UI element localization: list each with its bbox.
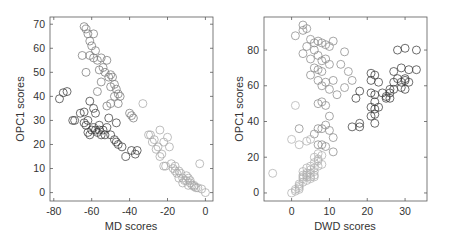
data-point: [325, 60, 333, 68]
data-point: [329, 148, 337, 156]
x-axis-label-left: MD scores: [105, 220, 158, 232]
data-point: [158, 150, 166, 158]
data-point: [288, 135, 296, 143]
data-point: [341, 84, 349, 92]
x-axis-label-right: DWD scores: [314, 220, 376, 232]
axis-ticks-left: -80-60-40-200010203040506070: [33, 17, 213, 217]
x-tick-label: 30: [399, 205, 411, 217]
x-tick-label: -40: [122, 205, 137, 217]
data-point: [303, 42, 311, 50]
data-point: [329, 76, 337, 84]
y-tick-label: 50: [33, 66, 45, 78]
data-point: [356, 87, 364, 95]
y-axis-label-left: OPC1 scores: [14, 76, 26, 142]
data-point: [333, 91, 341, 99]
data-point: [314, 51, 322, 59]
data-point: [156, 153, 164, 161]
data-point: [145, 131, 153, 139]
data-point: [156, 126, 164, 134]
data-point: [82, 121, 90, 129]
y-tick-label: 30: [33, 114, 45, 126]
data-point: [160, 162, 168, 170]
data-point: [105, 114, 113, 122]
data-point: [78, 51, 86, 59]
y-tick-label: 0: [39, 186, 45, 198]
data-point: [314, 76, 322, 84]
data-point: [341, 48, 349, 56]
data-point: [307, 55, 315, 63]
data-point: [356, 123, 364, 131]
figure: -80-60-40-200010203040506070 MD scores O…: [0, 0, 450, 242]
data-point: [86, 131, 94, 139]
data-point: [154, 143, 162, 151]
data-point: [412, 46, 420, 54]
data-point: [329, 37, 337, 45]
x-tick-label: 0: [289, 205, 295, 217]
x-tick-label: -20: [160, 205, 175, 217]
x-tick-label: -80: [46, 205, 61, 217]
x-tick-label: 10: [324, 205, 336, 217]
data-point: [394, 46, 402, 54]
y-tick-label: 20: [247, 151, 259, 163]
y-tick-label: 20: [33, 138, 45, 150]
x-tick-label: -60: [84, 205, 99, 217]
data-point: [295, 141, 303, 149]
data-point: [269, 169, 277, 177]
data-point: [405, 66, 413, 74]
points-left: [55, 23, 209, 197]
data-point: [329, 134, 337, 142]
data-point: [71, 116, 79, 124]
data-point: [112, 119, 120, 127]
y-tick-label: 0: [253, 186, 259, 198]
data-point: [90, 104, 98, 112]
data-point: [310, 130, 318, 138]
y-tick-label: 40: [247, 115, 259, 127]
x-tick-label: 0: [202, 205, 208, 217]
data-point: [90, 30, 98, 38]
data-point: [114, 100, 122, 108]
data-point: [344, 67, 352, 75]
data-point: [80, 23, 88, 31]
data-point: [295, 125, 303, 133]
data-point: [325, 85, 333, 93]
data-point: [82, 25, 90, 33]
data-point: [86, 37, 94, 45]
data-point: [82, 68, 90, 76]
data-point: [375, 78, 383, 86]
y-tick-label: 80: [247, 44, 259, 56]
x-tick-label: 20: [361, 205, 373, 217]
scatter-dwd-vs-opc1: 0102030020406080 DWD scores OPC1 scores: [233, 17, 427, 232]
data-point: [348, 76, 356, 84]
data-point: [148, 138, 156, 146]
data-point: [128, 112, 136, 120]
data-point: [325, 126, 333, 134]
data-point: [397, 64, 405, 72]
y-tick-label: 40: [33, 90, 45, 102]
data-point: [55, 95, 63, 103]
y-tick-label: 60: [247, 79, 259, 91]
data-point: [348, 123, 356, 131]
data-point: [291, 101, 299, 109]
data-point: [69, 116, 77, 124]
data-point: [86, 97, 94, 105]
axes-frame-right: [264, 17, 427, 201]
data-point: [93, 88, 101, 96]
scatter-md-vs-opc1: -80-60-40-200010203040506070 MD scores O…: [14, 17, 213, 232]
data-point: [352, 94, 360, 102]
data-point: [325, 112, 333, 120]
data-point: [390, 67, 398, 75]
data-point: [152, 145, 160, 153]
y-tick-label: 60: [33, 42, 45, 54]
data-point: [196, 160, 204, 168]
data-point: [307, 71, 315, 79]
data-point: [299, 50, 307, 58]
data-point: [337, 60, 345, 68]
y-axis-label-right: OPC1 scores: [233, 76, 245, 142]
data-point: [371, 119, 379, 127]
data-point: [401, 44, 409, 52]
data-point: [165, 143, 173, 151]
data-point: [112, 138, 120, 146]
points-right: [269, 21, 421, 197]
data-point: [139, 100, 147, 108]
data-point: [356, 119, 364, 127]
